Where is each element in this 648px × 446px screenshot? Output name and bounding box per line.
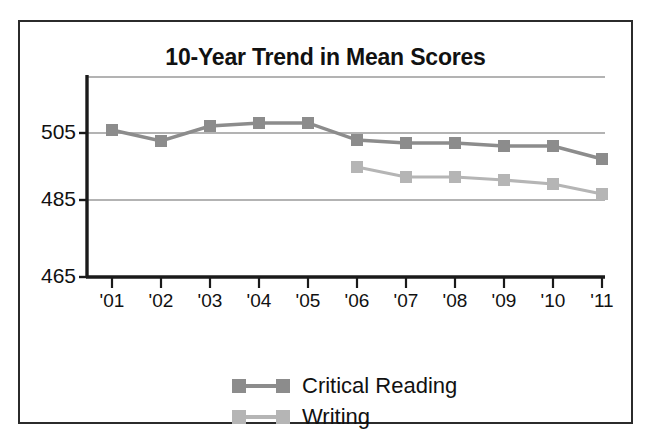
x-axis-tick-label-10: '10 bbox=[528, 290, 578, 312]
data-point-cr-02 bbox=[155, 135, 167, 147]
x-axis-tick-label-02: '02 bbox=[136, 290, 186, 312]
x-axis bbox=[86, 277, 605, 288]
data-point-cr-01 bbox=[106, 124, 118, 136]
x-axis-tick-label-06: '06 bbox=[332, 290, 382, 312]
data-point-writing-11 bbox=[596, 188, 608, 200]
data-point-cr-11 bbox=[596, 153, 608, 165]
y-axis-tick-label-465: 465 bbox=[18, 264, 76, 288]
data-point-cr-10 bbox=[547, 140, 559, 152]
legend-label-critical-reading: Critical Reading bbox=[302, 375, 457, 397]
data-point-cr-07 bbox=[400, 137, 412, 149]
legend-label-writing: Writing bbox=[302, 406, 370, 428]
chart-legend: Critical Reading Writing bbox=[232, 370, 457, 432]
data-point-writing-06 bbox=[351, 161, 363, 173]
chart-screenshot: 10-Year Trend in Mean Scores bbox=[0, 0, 648, 446]
legend-swatch-writing bbox=[232, 410, 290, 424]
legend-item-critical-reading[interactable]: Critical Reading bbox=[232, 370, 457, 401]
legend-marker-icon bbox=[232, 379, 246, 393]
data-point-writing-09 bbox=[498, 174, 510, 186]
series-critical-reading bbox=[106, 117, 608, 165]
legend-item-writing[interactable]: Writing bbox=[232, 401, 457, 432]
x-axis-tick-label-04: '04 bbox=[234, 290, 284, 312]
chart-plot-area bbox=[20, 22, 631, 422]
data-point-cr-03 bbox=[204, 120, 216, 132]
legend-marker-icon bbox=[276, 410, 290, 424]
data-point-cr-04 bbox=[253, 117, 265, 129]
data-point-cr-09 bbox=[498, 140, 510, 152]
legend-marker-icon bbox=[232, 410, 246, 424]
data-point-cr-05 bbox=[302, 117, 314, 129]
data-point-writing-07 bbox=[400, 171, 412, 183]
x-axis-tick-label-08: '08 bbox=[430, 290, 480, 312]
x-axis-tick-label-09: '09 bbox=[479, 290, 529, 312]
x-axis-tick-label-05: '05 bbox=[283, 290, 333, 312]
y-axis-tick-label-505: 505 bbox=[18, 120, 76, 144]
y-axis-tick-label-485: 485 bbox=[18, 187, 76, 211]
chart-frame: 10-Year Trend in Mean Scores bbox=[18, 20, 633, 424]
x-axis-tick-label-11: '11 bbox=[577, 290, 627, 312]
x-axis-tick-label-01: '01 bbox=[87, 290, 137, 312]
series-writing bbox=[351, 161, 608, 200]
legend-swatch-critical-reading bbox=[232, 379, 290, 393]
x-axis-tick-label-07: '07 bbox=[381, 290, 431, 312]
data-point-writing-10 bbox=[547, 178, 559, 190]
data-point-cr-08 bbox=[449, 137, 461, 149]
x-axis-tick-label-03: '03 bbox=[185, 290, 235, 312]
data-point-cr-06 bbox=[351, 134, 363, 146]
y-axis bbox=[79, 75, 87, 278]
legend-marker-icon bbox=[276, 379, 290, 393]
data-point-writing-08 bbox=[449, 171, 461, 183]
